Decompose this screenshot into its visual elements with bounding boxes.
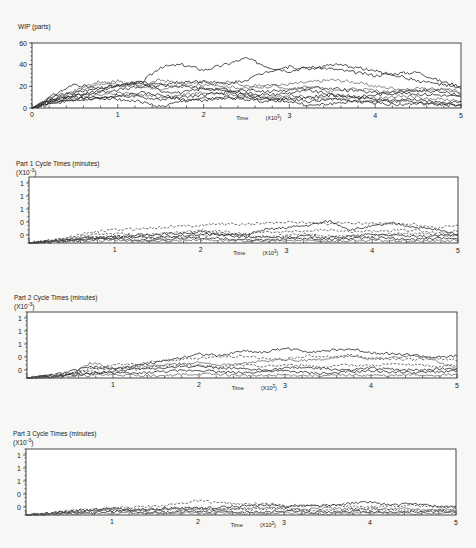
x-axis-label: Time [233,250,245,256]
y-tick-label: 1 [17,465,21,472]
x-tick-label: 4 [373,112,377,119]
y-tick-label: 0 [20,232,24,239]
data-series-line [29,233,458,243]
x-tick-label: 2 [199,246,203,253]
y-multiplier-label: (X10-3) [16,167,36,176]
chart-title: Part 1 Cycle Times (minutes) [16,160,99,167]
y-tick-label: 0 [18,354,22,361]
data-series-line [26,507,456,515]
x-multiplier-label: (X103) [265,114,281,122]
y-tick-label: 1 [20,180,24,187]
x-tick-label: 2 [197,381,201,388]
y-tick-label: 1 [17,478,21,485]
y-tick-label: 1 [18,341,22,348]
y-multiplier-label: (X10-3) [13,437,33,446]
wip-line-chart: 012345Time(X103)0204060 [0,0,476,140]
chart-title: Part 2 Cycle Times (minutes) [14,294,97,301]
x-tick-label: 5 [455,382,459,389]
y-tick-label: 0 [17,491,21,498]
x-tick-label: 3 [283,382,287,389]
data-series-line [27,365,457,379]
x-multiplier-label: (X103) [262,249,278,257]
x-tick-label: 4 [369,382,373,389]
data-series-line [29,229,458,243]
data-series-line [27,363,457,378]
x-tick-label: 1 [111,381,115,388]
x-axis-label: Time [236,115,248,121]
chart-title: Part 3 Cycle Times (minutes) [13,430,96,437]
data-series-line [27,370,457,378]
x-tick-label: 1 [116,111,120,118]
x-tick-label: 3 [287,112,291,119]
y-tick-label: 1 [17,452,21,459]
y-tick-label: 0 [20,219,24,226]
data-series-line [29,239,458,244]
data-series-line [29,233,458,244]
plot-frame [26,449,456,515]
x-tick-label: 2 [196,518,200,525]
x-tick-label: 5 [456,247,460,254]
plot-frame [27,312,457,378]
y-tick-label: 1 [20,193,24,200]
x-tick-label: 4 [368,519,372,526]
x-tick-label: 0 [30,111,34,118]
data-series-line [29,237,458,243]
data-series-line [27,354,457,378]
data-series-line [27,373,457,378]
data-series-line [27,348,457,378]
x-tick-label: 2 [202,111,206,118]
y-tick-label: 1 [20,206,24,213]
x-multiplier-label: (X103) [260,521,276,529]
data-series-line [29,221,458,243]
x-axis-label: Time [231,522,243,528]
x-tick-label: 1 [110,518,114,525]
data-series-line [26,501,456,515]
y-tick-label: 0 [23,105,27,112]
y-tick-label: 1 [18,315,22,322]
x-tick-label: 3 [284,247,288,254]
plot-frame [29,177,458,243]
y-tick-label: 20 [19,83,27,90]
data-series-line [26,510,456,515]
data-series-line [29,221,458,244]
wip-chart-panel: WIP (parts) 012345Time(X103)0204060 [0,0,476,140]
x-tick-label: 1 [113,246,117,253]
y-tick-label: 0 [17,504,21,511]
x-tick-label: 3 [282,519,286,526]
y-tick-label: 0 [18,367,22,374]
x-tick-label: 5 [459,112,463,119]
data-series-line [26,512,456,516]
y-tick-label: 60 [19,40,27,47]
y-multiplier-label: (X10-3) [14,301,34,310]
x-tick-label: 5 [454,519,458,526]
y-tick-label: 40 [19,61,27,68]
data-series-line [26,507,456,515]
data-series-line [27,355,457,378]
x-multiplier-label: (X103) [261,384,277,392]
y-tick-label: 1 [18,328,22,335]
x-axis-label: Time [232,385,244,391]
data-series-line [26,500,456,515]
x-tick-label: 4 [370,247,374,254]
